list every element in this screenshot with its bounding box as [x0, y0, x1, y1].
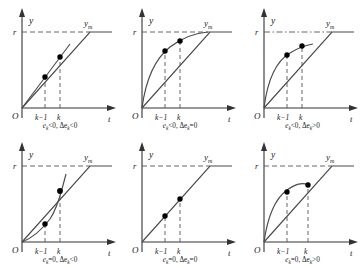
- panel-ek-neg-dek-pos: y r O t ym k−1 k ek<0, Δek>0: [240, 0, 360, 134]
- origin-label: O: [132, 245, 139, 255]
- panel-ek-zero-dek-pos: y r O t ym k−1 k ek=0, Δek>0: [240, 134, 360, 268]
- y-axis-arrow: [19, 8, 25, 17]
- sample-point-k-minus-1: [284, 189, 289, 194]
- sample-point-k: [177, 196, 182, 201]
- t-axis-arrow: [107, 105, 116, 111]
- t-axis-arrow: [227, 105, 236, 111]
- t-axis-arrow: [349, 105, 358, 111]
- sample-point-k-minus-1: [162, 48, 167, 53]
- figure-panel-grid: y r O t ym k−1 k ek<0, Δek<0 y r: [0, 0, 360, 268]
- t-axis-arrow: [107, 239, 116, 245]
- ym-label: ym: [83, 18, 93, 30]
- panel-plot-6: y r O t ym k−1 k: [240, 134, 360, 268]
- panel-caption-2: ek<0, Δek=0: [120, 122, 240, 131]
- panel-caption-4: ek=0, Δek<0: [0, 256, 120, 265]
- origin-label: O: [132, 111, 139, 121]
- r-label: r: [255, 161, 259, 171]
- sample-point-k: [177, 38, 182, 43]
- sample-point-k: [57, 188, 63, 194]
- ym-label: ym: [203, 152, 213, 164]
- y-axis-arrow: [139, 8, 145, 17]
- reference-ramp-line: [142, 32, 232, 108]
- panel-ek-zero-dek-neg: y r O t ym k−1 k ek=0, Δek<0: [0, 134, 120, 268]
- y-axis-label: y: [28, 150, 34, 160]
- y-axis-arrow: [19, 142, 25, 151]
- r-label: r: [13, 27, 17, 37]
- y-axis-arrow: [261, 142, 267, 151]
- panel-caption-3: ek<0, Δek>0: [240, 122, 360, 131]
- response-curve: [22, 174, 66, 242]
- sample-point-k-minus-1: [42, 221, 47, 226]
- r-label: r: [255, 27, 259, 37]
- panel-ek-neg-dek-zero: y r O t ym k−1 k ek<0, Δek=0: [120, 0, 240, 134]
- reference-ramp-line: [264, 166, 354, 242]
- panel-caption-6: ek=0, Δek>0: [240, 256, 360, 265]
- panel-caption-1: ek<0, Δek<0: [0, 122, 120, 131]
- sample-point-k: [57, 54, 62, 59]
- r-label: r: [133, 161, 137, 171]
- ym-label: ym: [203, 18, 213, 30]
- ym-label: ym: [83, 152, 93, 164]
- panel-caption-5: ek=0, Δek=0: [120, 256, 240, 265]
- y-axis-label: y: [270, 150, 276, 160]
- sample-point-k-minus-1: [284, 52, 289, 57]
- panel-plot-3: y r O t ym k−1 k: [240, 0, 360, 134]
- ym-label: ym: [325, 18, 335, 30]
- panel-ek-neg-dek-neg: y r O t ym k−1 k ek<0, Δek<0: [0, 0, 120, 134]
- y-axis-arrow: [139, 142, 145, 151]
- sample-point-k-minus-1: [162, 213, 167, 218]
- sample-point-k-minus-1: [42, 74, 47, 79]
- panel-plot-5: y r O t ym k−1 k: [120, 134, 240, 268]
- origin-label: O: [12, 245, 19, 255]
- origin-label: O: [254, 245, 261, 255]
- ym-label: ym: [325, 152, 335, 164]
- panel-plot-2: y r O t ym k−1 k: [120, 0, 240, 134]
- y-axis-label: y: [148, 150, 154, 160]
- t-axis-arrow: [349, 239, 358, 245]
- sample-point-k: [305, 182, 310, 187]
- panel-ek-zero-dek-zero: y r O t ym k−1 k ek=0, Δek=0: [120, 134, 240, 268]
- y-axis-label: y: [148, 16, 154, 26]
- reference-ramp-line: [22, 32, 112, 108]
- reference-ramp-line: [22, 166, 112, 242]
- sample-point-k: [299, 43, 304, 48]
- origin-label: O: [12, 111, 19, 121]
- origin-label: O: [254, 111, 261, 121]
- panel-plot-4: y r O t ym k−1 k: [0, 134, 120, 268]
- r-label: r: [13, 161, 17, 171]
- y-axis-label: y: [270, 16, 276, 26]
- y-axis-label: y: [28, 16, 34, 26]
- t-axis-arrow: [227, 239, 236, 245]
- reference-ramp-line: [142, 166, 232, 242]
- r-label: r: [133, 27, 137, 37]
- y-axis-arrow: [261, 8, 267, 17]
- reference-ramp-line: [264, 32, 354, 108]
- panel-plot-1: y r O t ym k−1 k: [0, 0, 120, 134]
